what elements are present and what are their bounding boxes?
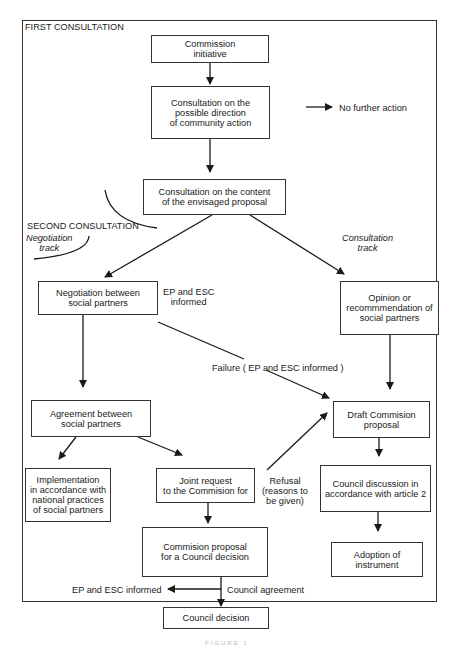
council-agreement-label: Council agreement	[227, 585, 304, 595]
first-consultation-label: FIRST CONSULTATION	[25, 22, 124, 32]
node-opinion: Opinion or recommmendation of social par…	[340, 281, 439, 335]
node-commission-initiative: Commission initiative	[151, 35, 269, 63]
node-commission-proposal-council: Commision proposal for a Council decisio…	[142, 527, 268, 577]
node-agreement: Agreement between social partners	[31, 400, 151, 437]
ep-esc-informed-label: EP and ESC informed	[163, 287, 214, 307]
node-consultation-direction: Consultation on the possible direction o…	[151, 86, 270, 139]
node-adoption: Adoption of instrument	[331, 542, 423, 577]
refusal-label: Refusal (reasons to be given)	[262, 476, 308, 506]
negotiation-track-label: Negotiation track	[26, 233, 72, 253]
no-further-action-label: No further action	[339, 103, 407, 113]
node-draft-proposal: Draft Commision proposal	[333, 401, 430, 438]
figure-caption: FIGURE 1	[205, 640, 249, 646]
node-council-discussion: Council discussion in accordance with ar…	[320, 465, 431, 512]
node-joint-request: Joint request to the Commision for	[156, 468, 255, 503]
failure-label: Failure ( EP and ESC informed )	[212, 363, 344, 373]
consultation-track-label: Consultation track	[342, 233, 393, 253]
node-council-decision: Council decision	[163, 607, 269, 629]
node-consultation-content: Consultation on the content of the envis…	[143, 179, 286, 215]
node-negotiation: Negotiation between social partners	[38, 281, 158, 315]
second-consultation-label: SECOND CONSULTATION	[27, 221, 139, 231]
node-implementation: Implementation in accordance with nation…	[25, 468, 111, 522]
ep-esc-informed-bottom-label: EP and ESC informed	[72, 585, 162, 595]
